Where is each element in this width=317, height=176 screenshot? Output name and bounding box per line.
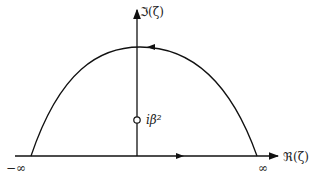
contour-arc: [31, 47, 257, 156]
minus-infinity-label: −∞: [6, 161, 26, 175]
plus-infinity-label: ∞: [258, 161, 268, 175]
pole-label: iβ²: [146, 113, 162, 127]
real-axis-direction-arrow: [176, 153, 184, 159]
real-axis-label: ℜ(ζ): [283, 150, 309, 164]
contour-diagram: ℑ(ζ) ℜ(ζ) −∞ ∞ iβ²: [0, 0, 317, 176]
arc-direction-arrow: [147, 44, 155, 50]
imag-axis-label: ℑ(ζ): [140, 5, 164, 19]
pole-marker: [134, 117, 140, 123]
